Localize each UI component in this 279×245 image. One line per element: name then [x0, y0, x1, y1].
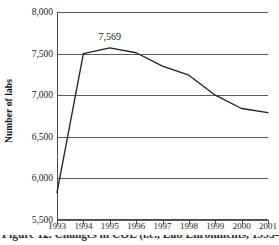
peak-value-annotation: 7,569: [99, 31, 122, 42]
y-axis-title-text: Number of labs: [4, 79, 14, 143]
x-tick-label-1995: 1995: [101, 221, 119, 231]
x-tick-label-1996: 1996: [127, 221, 145, 231]
x-tick-label-1997: 1997: [154, 221, 172, 231]
x-tick-label-1993: 1993: [48, 221, 66, 231]
plot-area: 7,569: [57, 12, 268, 220]
y-tick-label-8000: 8,000: [32, 7, 53, 17]
y-tick-label-7500: 7,500: [32, 49, 53, 59]
x-tick-label-2000: 2000: [233, 221, 251, 231]
y-tick-label-6500: 6,500: [32, 132, 53, 142]
x-tick-label-1999: 1999: [206, 221, 224, 231]
x-tick-label-1994: 1994: [74, 221, 92, 231]
data-series-svg: [57, 12, 268, 220]
figure-container: Number of labs 8,0007,5007,0006,5006,000…: [0, 0, 279, 245]
figure-caption-text: Figure 12. Changes in COL (i.e., Lab Enr…: [2, 235, 279, 240]
data-line-number-of-labs: [57, 48, 268, 193]
x-tick-label-2001: 2001: [259, 221, 277, 231]
y-axis-tick-labels: 8,0007,5007,0006,5006,0005,500: [14, 0, 56, 222]
figure-caption: Figure 12. Changes in COL (i.e., Lab Enr…: [0, 235, 279, 245]
x-axis-tick-labels: 199319941995199619971998199920002001: [57, 221, 272, 233]
x-tick-label-1998: 1998: [180, 221, 198, 231]
y-tick-label-6000: 6,000: [32, 173, 53, 183]
y-tick-label-7000: 7,000: [32, 90, 53, 100]
